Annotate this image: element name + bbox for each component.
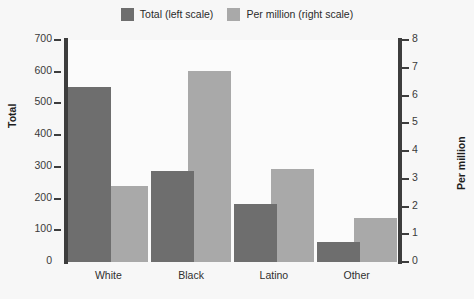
left-tick-mark [54, 166, 61, 168]
bar-per-million [188, 71, 231, 262]
right-tick-label: 5 [412, 116, 418, 127]
bar-chart: Total (left scale) Per million (right sc… [0, 0, 474, 299]
left-tick-label: 700 [34, 33, 52, 44]
right-tick-label: 0 [412, 255, 418, 266]
legend-swatch-per-million [227, 8, 240, 21]
right-tick-mark [402, 150, 409, 152]
bar-per-million [105, 186, 148, 262]
left-tick-mark [54, 198, 61, 200]
right-tick-mark [402, 95, 409, 97]
bar-total [317, 242, 360, 262]
left-tick-mark [54, 229, 61, 231]
left-tick-label: 300 [34, 160, 52, 171]
right-tick-label: 7 [412, 61, 418, 72]
right-tick-mark [402, 178, 409, 180]
category-label: Black [151, 270, 231, 281]
left-tick-label: 200 [34, 192, 52, 203]
legend-label-per-million: Per million (right scale) [246, 9, 353, 20]
right-tick-label: 1 [412, 227, 418, 238]
left-tick-mark [54, 71, 61, 73]
right-tick-label: 8 [412, 33, 418, 44]
left-axis-title: Total [6, 104, 18, 128]
left-tick-mark [54, 39, 61, 41]
right-tick-label: 3 [412, 172, 418, 183]
bar-total [151, 171, 194, 262]
left-tick-label: 600 [34, 65, 52, 76]
right-tick-label: 2 [412, 200, 418, 211]
legend-item-per-million: Per million (right scale) [227, 8, 353, 21]
right-tick-mark [402, 261, 409, 263]
legend-swatch-total [121, 8, 134, 21]
left-tick-label: 100 [34, 223, 52, 234]
right-tick-label: 6 [412, 89, 418, 100]
left-tick-label: 500 [34, 96, 52, 107]
legend-label-total: Total (left scale) [140, 9, 214, 20]
left-tick-mark [54, 102, 61, 104]
left-tick-label: 0 [46, 255, 52, 266]
right-tick-mark [402, 67, 409, 69]
right-tick-label: 4 [412, 144, 418, 155]
bar-per-million [354, 218, 397, 262]
legend-item-total: Total (left scale) [121, 8, 214, 21]
bar-total [68, 87, 111, 262]
left-tick-label: 400 [34, 128, 52, 139]
right-tick-mark [402, 233, 409, 235]
right-tick-mark [402, 122, 409, 124]
right-tick-mark [402, 39, 409, 41]
bar-per-million [271, 169, 314, 262]
category-label: Latino [234, 270, 314, 281]
right-axis-title: Per million [455, 136, 467, 190]
right-tick-mark [402, 206, 409, 208]
chart-legend: Total (left scale) Per million (right sc… [0, 8, 474, 21]
category-label: Other [317, 270, 397, 281]
bar-total [234, 204, 277, 262]
left-tick-mark [54, 134, 61, 136]
category-label: White [68, 270, 148, 281]
